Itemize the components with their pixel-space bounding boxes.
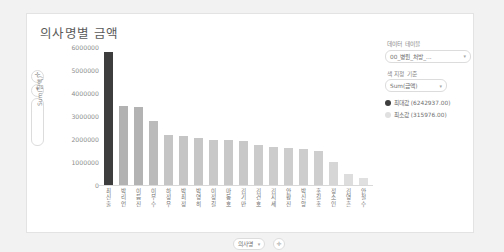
y-axis-title: Sum(금액) [35,76,44,106]
legend-item: 최대값 (6242937.00) [385,98,471,107]
y-tick: 4000000 [71,89,99,96]
color-by-value: Sum(금액) [390,81,418,90]
y-tick: 2000000 [71,136,99,143]
x-tick-label: 박리언 [120,188,128,207]
y-tick: 3000000 [71,113,99,120]
bar[interactable] [194,138,203,185]
bar[interactable] [254,145,263,185]
bar[interactable] [284,148,293,185]
legend-item: 최소값 (315976.00) [385,110,471,119]
x-tick-label: 최신출 [105,188,113,207]
x-tick-label: 이듬진 [135,188,143,207]
bar[interactable] [149,121,158,185]
x-field-label: 의사명 [238,241,253,247]
bar[interactable] [104,52,113,185]
x-tick-label: 김건호 [255,188,263,207]
add-field-button[interactable]: ✛ [273,238,285,250]
bar[interactable] [224,140,233,185]
x-tick-label: 박최정 [180,188,188,207]
x-tick-label: 박영히 [195,188,203,207]
legend-label: 최소값 (315976.00) [394,110,447,119]
y-tick: 5000000 [71,67,99,74]
bar[interactable] [359,178,368,185]
x-tick-label: 이정길 [210,188,218,207]
y-tick: 1000000 [71,158,99,165]
bar[interactable] [164,135,173,185]
chart-options-panel: 데이터 테이블 00_병원_처방_... ▾ 색 지정 기준 Sum(금액) ▾… [385,39,471,122]
x-tick-label: 안철수 [360,188,368,207]
chart-card: 의사명별 금액 ✛ ▾ Sum(금액) 6000000 5000000 4000… [26,13,474,233]
color-legend: 최대값 (6242937.00)최소값 (315976.00) [385,98,471,119]
x-tick-label: 이무수 [150,188,158,207]
y-axis: 6000000 5000000 4000000 3000000 2000000 … [47,47,99,185]
x-tick-label: 하정우 [165,188,173,207]
data-table-label: 데이터 테이블 [387,39,471,48]
x-field-pill[interactable]: 의사명 ▾ [233,238,265,250]
bar[interactable] [179,136,188,185]
legend-label: 최대값 (6242937.00) [394,98,450,107]
x-tick-label: 안황진 [285,188,293,207]
x-tick-label: 마동호 [225,188,233,207]
bar[interactable] [269,147,278,185]
color-by-label: 색 지정 기준 [387,69,471,78]
chevron-down-icon: ▾ [258,241,261,247]
x-tick-label: 박신앙 [300,188,308,207]
x-tick-label: 정소인 [330,188,338,207]
bar[interactable] [134,107,143,185]
color-by-select[interactable]: Sum(금액) ▾ [385,79,447,92]
bar[interactable] [314,151,323,185]
x-tick-label: 김지세 [270,188,278,207]
legend-swatch [385,100,391,106]
bar[interactable] [299,149,308,185]
bar[interactable] [119,106,128,185]
y-tick: 6000000 [71,44,99,51]
bar-series [101,47,371,185]
x-tick-label: 김기만 [240,188,248,207]
chevron-down-icon: ▾ [463,53,466,59]
x-tick-label: 김영흔 [345,188,353,207]
x-axis-line [99,185,373,186]
legend-swatch [385,112,391,118]
bar[interactable] [344,174,353,185]
bar[interactable] [239,141,248,185]
data-table-value: 00_병원_처방_... [390,52,432,61]
bar[interactable] [329,162,338,185]
bar[interactable] [209,140,218,185]
x-tick-label: 홍길홍 [315,188,323,207]
data-table-select[interactable]: 00_병원_처방_... ▾ [385,50,471,63]
chevron-down-icon: ▾ [439,83,442,89]
x-axis-labels: 최신출박리언이듬진이무수하정우박최정박영히이정길마동호김기만김건호김지세안황진박… [101,188,371,230]
